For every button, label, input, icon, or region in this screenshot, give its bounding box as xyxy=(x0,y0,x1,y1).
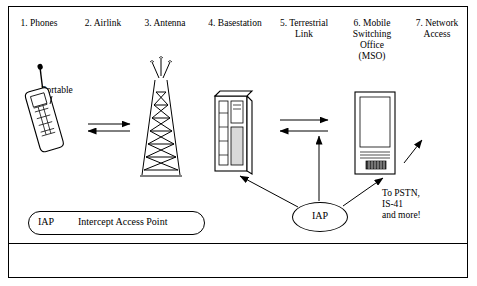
basestation-icon xyxy=(215,91,252,174)
mso-icon xyxy=(355,92,395,174)
diagram-artwork xyxy=(0,0,477,286)
portable-phone-icon xyxy=(18,63,66,153)
antenna-tower-icon xyxy=(140,57,182,177)
diagram-canvas: 1. Phones 2. Airlink 3. Antenna 4. Bases… xyxy=(0,0,477,286)
